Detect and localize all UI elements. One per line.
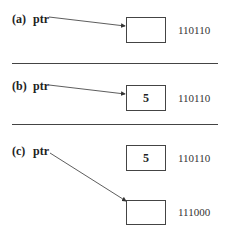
panel-b-pointer: ptr	[33, 80, 49, 92]
panel-b-memory-box: 5	[126, 85, 166, 111]
panel-a-pointer: ptr	[33, 13, 49, 25]
panel-c-memory-box-2	[126, 200, 166, 225]
panel-c-pointer: ptr	[33, 145, 49, 157]
panel-c-memory-box-1: 5	[126, 145, 166, 171]
panel-b-label: (b)	[12, 80, 27, 92]
panel-a-memory-box	[126, 17, 166, 43]
arrow-c	[50, 153, 126, 201]
panel-c-address-1: 110110	[178, 153, 210, 164]
arrow-b	[49, 85, 125, 94]
arrow-a	[49, 17, 125, 26]
panel-a-label: (a)	[12, 13, 26, 25]
panel-c-address-2: 111000	[178, 207, 210, 218]
panel-a-address: 110110	[178, 25, 210, 36]
divider-1	[12, 63, 218, 64]
panel-c-label: (c)	[12, 145, 25, 157]
pointer-diagram: (a) ptr 110110 (b) ptr 5 110110 (c) ptr …	[0, 0, 227, 238]
divider-2	[12, 124, 218, 125]
panel-b-address: 110110	[178, 93, 210, 104]
